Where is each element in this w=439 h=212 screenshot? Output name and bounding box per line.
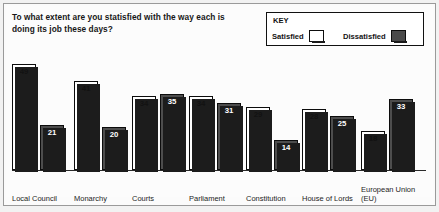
bar-value-label: 31: [218, 106, 240, 115]
white-square-icon: [309, 30, 324, 42]
bar-dissatisfied: 33: [389, 99, 413, 170]
legend-item-satisfied: Satisfied: [272, 30, 324, 42]
bar-satisfied: 28: [302, 109, 326, 170]
bar-satisfied: 49: [12, 64, 36, 170]
bar-value-label: 25: [331, 119, 353, 128]
bar-value-label: 41: [75, 84, 97, 93]
bar-value-label: 34: [133, 99, 155, 108]
legend-item-dissatisfied: Dissatisfied: [343, 30, 406, 42]
bar-dissatisfied: 14: [274, 140, 298, 170]
legend: KEY Satisfied Dissatisfied: [266, 12, 424, 46]
bar-dissatisfied: 35: [160, 94, 184, 170]
bar-value-label: 14: [275, 143, 297, 152]
bar-value-label: 18: [362, 134, 384, 143]
plot-area: 4921412034353431291428251833: [12, 51, 426, 171]
category-label: European Union (EU): [361, 185, 423, 204]
legend-label-dissatisfied: Dissatisfied: [343, 32, 386, 41]
legend-label-satisfied: Satisfied: [272, 32, 304, 41]
category-label: House of Lords: [302, 194, 364, 204]
bar-satisfied: 29: [246, 107, 270, 170]
category-label: Constitution: [246, 194, 308, 204]
category-label: Courts: [132, 194, 194, 204]
bar-value-label: 33: [390, 102, 412, 111]
bar-value-label: 34: [190, 99, 212, 108]
bar-satisfied: 34: [132, 96, 156, 170]
dark-square-icon: [391, 30, 406, 42]
category-label: Parliament: [189, 194, 251, 204]
bar-value-label: 21: [41, 128, 63, 137]
bar-value-label: 28: [303, 112, 325, 121]
chart-title: To what extent are you statisfied with t…: [12, 12, 244, 35]
bar-dissatisfied: 31: [217, 103, 241, 170]
bar-satisfied: 18: [361, 131, 385, 170]
bar-satisfied: 34: [189, 96, 213, 170]
bar-dissatisfied: 25: [330, 116, 354, 170]
legend-heading: KEY: [273, 16, 289, 25]
bar-chart-figure: To what extent are you statisfied with t…: [0, 0, 439, 212]
category-label: Monarchy: [74, 194, 136, 204]
bar-satisfied: 41: [74, 81, 98, 170]
category-label: Local Council: [12, 194, 74, 204]
bar-value-label: 49: [13, 67, 35, 76]
bar-dissatisfied: 21: [40, 125, 64, 170]
bar-value-label: 35: [161, 97, 183, 106]
bar-value-label: 20: [103, 130, 125, 139]
bar-dissatisfied: 20: [102, 127, 126, 170]
bar-value-label: 29: [247, 110, 269, 119]
